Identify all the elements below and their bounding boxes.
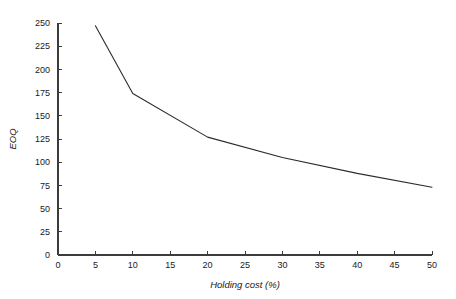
- chart-screenshot: 0255075100125150175200225250 05101520253…: [0, 0, 456, 299]
- x-tick-label: 50: [427, 260, 437, 270]
- y-tick-label: 225: [35, 41, 50, 51]
- x-tick-label: 20: [203, 260, 213, 270]
- x-tick-label: 45: [390, 260, 400, 270]
- x-axis-title: Holding cost (%): [210, 279, 280, 290]
- x-tick-label: 0: [55, 260, 60, 270]
- y-tick-label: 200: [35, 65, 50, 75]
- eoq-line-chart: 0255075100125150175200225250 05101520253…: [0, 0, 456, 299]
- x-tick-label: 40: [352, 260, 362, 270]
- y-tick-label: 125: [35, 134, 50, 144]
- y-tick-label: 175: [35, 88, 50, 98]
- x-tick-label: 35: [315, 260, 325, 270]
- x-tick-label: 30: [277, 260, 287, 270]
- x-tick-label: 25: [240, 260, 250, 270]
- chart-background: [0, 0, 456, 299]
- y-tick-label: 100: [35, 157, 50, 167]
- y-tick-label: 25: [40, 227, 50, 237]
- x-tick-label: 15: [165, 260, 175, 270]
- y-tick-label: 0: [45, 250, 50, 260]
- x-tick-label: 5: [93, 260, 98, 270]
- y-tick-label: 150: [35, 111, 50, 121]
- y-axis-title: EOQ: [7, 128, 18, 150]
- y-tick-label: 75: [40, 181, 50, 191]
- y-tick-label: 250: [35, 18, 50, 28]
- x-tick-label: 10: [128, 260, 138, 270]
- y-tick-label: 50: [40, 204, 50, 214]
